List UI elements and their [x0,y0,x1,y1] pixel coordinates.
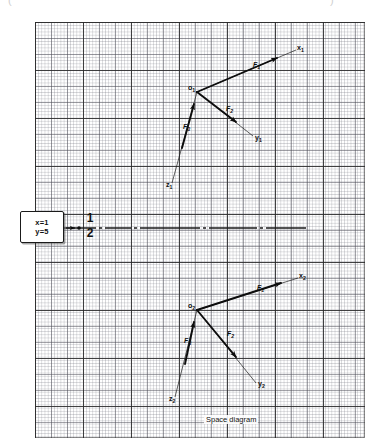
upper-force-1-label: F1 [253,61,260,68]
upper-y-axis-label: y1 [255,134,262,141]
lower-force-1-label: F1 [257,284,264,291]
cropped-text-left: ( [8,0,12,6]
scale-fraction-denominator: 2 [83,226,97,240]
scale-fraction: 1 2 [83,211,97,243]
upper-origin-label: o1 [188,84,195,91]
cropped-text-right: ) [330,0,334,6]
lower-x-axis-label: x2 [299,272,306,279]
cropped-text-sliver: ( ) [0,0,371,14]
upper-z-axis-label: z1 [166,181,172,188]
figure-caption: Space diagram [204,415,258,424]
callout-line-x: x=1 [35,218,48,227]
upper-force-3-label: F3 [183,123,190,130]
callout-line-y: y=5 [35,227,48,236]
lower-y-axis-label: y2 [258,380,265,387]
upper-x-axis-label: x1 [297,44,304,51]
lower-force-2-label: F2 [227,330,234,337]
scale-callout-box[interactable]: x=1 y=5 [20,211,64,243]
lower-force-3-label: F3 [184,337,191,344]
lower-origin-label: o2 [188,302,195,309]
upper-force-2-label: F2 [226,105,233,112]
scale-fraction-numerator: 1 [83,211,97,225]
lower-z-axis-label: z2 [169,395,175,402]
